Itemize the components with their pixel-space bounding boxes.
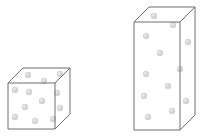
- particle-highlight: [58, 72, 61, 75]
- particle-highlight: [23, 105, 26, 108]
- particle-highlight: [13, 115, 16, 118]
- box-edge: [134, 7, 149, 22]
- box-edge: [55, 114, 70, 129]
- particle-highlight: [152, 14, 155, 17]
- particle-highlight: [26, 73, 29, 76]
- particle-highlight: [142, 94, 145, 97]
- particle-boxes-diagram: [0, 0, 203, 140]
- cube-container: [8, 68, 70, 129]
- particle-highlight: [40, 99, 43, 102]
- particle-highlight: [13, 88, 16, 91]
- particle-highlight: [184, 99, 187, 102]
- particle-highlight: [158, 51, 161, 54]
- particle-highlight: [171, 23, 174, 26]
- particle-highlight: [146, 115, 149, 118]
- particle-highlight: [166, 84, 169, 87]
- particle-highlight: [144, 72, 147, 75]
- box-edge: [180, 7, 195, 22]
- particle-highlight: [58, 106, 61, 109]
- tall-box-container: [134, 7, 195, 130]
- box-edge: [8, 68, 23, 83]
- particle-highlight: [42, 79, 45, 82]
- particle-highlight: [144, 34, 147, 37]
- particle-highlight: [33, 119, 36, 122]
- particle-highlight: [186, 40, 189, 43]
- particle-highlight: [27, 90, 30, 93]
- box-edge: [180, 115, 195, 130]
- particle-highlight: [51, 117, 54, 120]
- particle-highlight: [170, 109, 173, 112]
